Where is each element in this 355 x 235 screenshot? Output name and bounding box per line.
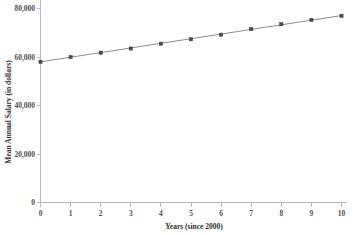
data-point bbox=[39, 60, 42, 63]
x-tick-label: 2 bbox=[99, 209, 103, 218]
data-point bbox=[69, 55, 72, 58]
x-tick-label: 1 bbox=[69, 209, 73, 218]
data-point bbox=[99, 51, 102, 54]
chart-background bbox=[0, 0, 355, 235]
x-tick-label: 6 bbox=[219, 209, 223, 218]
data-point bbox=[220, 33, 223, 36]
x-tick-label: 5 bbox=[189, 209, 193, 218]
y-tick-label: 40,000 bbox=[14, 101, 35, 110]
x-tick-label: 9 bbox=[310, 209, 314, 218]
y-tick-label: 20,000 bbox=[14, 150, 35, 159]
y-tick-label: 80,000 bbox=[14, 4, 35, 13]
data-point bbox=[310, 18, 313, 21]
data-point bbox=[129, 47, 132, 50]
chart-figure: 020,00040,00060,00080,000 Mean Annual Sa… bbox=[0, 0, 355, 235]
y-tick-label: 60,000 bbox=[14, 53, 35, 62]
x-tick-label: 0 bbox=[39, 209, 43, 218]
x-tick-label: 7 bbox=[249, 209, 253, 218]
x-tick-label: 3 bbox=[129, 209, 133, 218]
x-axis-title: Years (since 2000) bbox=[165, 222, 223, 231]
data-point bbox=[250, 28, 253, 31]
scatter-plot: 020,00040,00060,00080,000 Mean Annual Sa… bbox=[0, 0, 355, 235]
data-point bbox=[159, 42, 162, 45]
x-tick-label: 10 bbox=[338, 209, 346, 218]
x-tick-label: 4 bbox=[159, 209, 163, 218]
data-point bbox=[280, 23, 283, 26]
data-point bbox=[189, 38, 192, 41]
x-tick-label: 8 bbox=[279, 209, 283, 218]
y-axis-title: Mean Annual Salary (in dollars) bbox=[4, 60, 13, 164]
y-tick-label: 0 bbox=[31, 198, 35, 207]
data-point bbox=[340, 14, 343, 17]
